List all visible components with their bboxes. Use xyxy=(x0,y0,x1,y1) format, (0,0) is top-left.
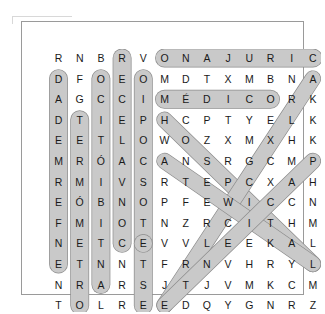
grid-cell[interactable]: I xyxy=(282,48,302,68)
grid-cell[interactable]: M xyxy=(239,275,259,295)
grid-cell[interactable]: E xyxy=(197,172,217,192)
grid-cell[interactable]: L xyxy=(91,295,111,314)
grid-cell[interactable]: T xyxy=(197,69,217,89)
grid-cell[interactable]: O xyxy=(155,48,175,68)
grid-cell[interactable]: F xyxy=(49,213,69,233)
grid-cell[interactable]: M xyxy=(303,275,323,295)
grid-cell[interactable]: B xyxy=(91,48,111,68)
grid-cell[interactable]: P xyxy=(155,192,175,212)
grid-cell[interactable]: C xyxy=(133,151,153,171)
grid-cell[interactable]: C xyxy=(282,192,302,212)
grid-cell[interactable]: C xyxy=(218,213,238,233)
grid-cell[interactable]: V xyxy=(218,254,238,274)
grid-cell[interactable]: N xyxy=(49,233,69,253)
grid-cell[interactable]: R xyxy=(112,48,132,68)
grid-cell[interactable]: K xyxy=(303,89,323,109)
grid-cell[interactable]: I xyxy=(218,89,238,109)
grid-cell[interactable]: Y xyxy=(239,110,259,130)
grid-cell[interactable]: F xyxy=(70,69,90,89)
grid-cell[interactable]: T xyxy=(261,213,281,233)
grid-cell[interactable]: K xyxy=(303,130,323,150)
grid-cell[interactable]: C xyxy=(176,110,196,130)
grid-cell[interactable]: E xyxy=(112,69,132,89)
grid-cell[interactable]: H xyxy=(239,254,259,274)
grid-cell[interactable]: Ó xyxy=(91,151,111,171)
grid-cell[interactable]: D xyxy=(197,89,217,109)
grid-cell[interactable]: V xyxy=(133,48,153,68)
grid-cell[interactable]: M xyxy=(155,69,175,89)
grid-cell[interactable]: T xyxy=(133,213,153,233)
grid-cell[interactable]: R xyxy=(282,295,302,314)
grid-cell[interactable]: S xyxy=(197,151,217,171)
grid-cell[interactable]: R xyxy=(197,213,217,233)
grid-cell[interactable]: Q xyxy=(197,295,217,314)
grid-cell[interactable]: A xyxy=(91,275,111,295)
grid-cell[interactable]: K xyxy=(261,233,281,253)
grid-cell[interactable]: G xyxy=(239,295,259,314)
grid-cell[interactable]: Y xyxy=(218,295,238,314)
grid-cell[interactable]: N xyxy=(282,69,302,89)
grid-cell[interactable]: V xyxy=(218,275,238,295)
grid-cell[interactable]: C xyxy=(303,48,323,68)
grid-cell[interactable]: G xyxy=(239,151,259,171)
grid-cell[interactable]: W xyxy=(218,192,238,212)
grid-cell[interactable]: N xyxy=(261,295,281,314)
grid-cell[interactable]: C xyxy=(239,172,259,192)
grid-cell[interactable]: N xyxy=(112,254,132,274)
grid-cell[interactable]: T xyxy=(91,130,111,150)
grid-cell[interactable]: T xyxy=(49,295,69,314)
grid-cell[interactable]: N xyxy=(112,192,132,212)
grid-cell[interactable]: I xyxy=(91,172,111,192)
grid-cell[interactable]: E xyxy=(133,233,153,253)
grid-cell[interactable]: C xyxy=(112,89,132,109)
grid-cell[interactable]: J xyxy=(155,275,175,295)
grid-cell[interactable]: O xyxy=(133,130,153,150)
grid-cell[interactable]: A xyxy=(197,48,217,68)
grid-cell[interactable]: A xyxy=(49,89,69,109)
grid-cell[interactable]: C xyxy=(261,192,281,212)
grid-cell[interactable]: P xyxy=(303,151,323,171)
grid-cell[interactable]: R xyxy=(70,151,90,171)
grid-cell[interactable]: N xyxy=(91,254,111,274)
grid-cell[interactable]: A xyxy=(112,151,132,171)
grid-cell[interactable]: Ó xyxy=(70,192,90,212)
grid-cell[interactable]: Y xyxy=(282,254,302,274)
grid-cell[interactable]: I xyxy=(239,213,259,233)
grid-cell[interactable]: A xyxy=(282,233,302,253)
grid-cell[interactable]: F xyxy=(176,192,196,212)
grid-cell[interactable]: T xyxy=(91,233,111,253)
grid-cell[interactable]: A xyxy=(155,151,175,171)
grid-cell[interactable]: T xyxy=(176,172,196,192)
grid-cell[interactable]: M xyxy=(155,89,175,109)
grid-cell[interactable]: N xyxy=(303,192,323,212)
grid-cell[interactable]: E xyxy=(49,254,69,274)
grid-cell[interactable]: A xyxy=(303,69,323,89)
grid-cell[interactable]: I xyxy=(133,89,153,109)
grid-cell[interactable]: H xyxy=(155,110,175,130)
grid-cell[interactable]: N xyxy=(176,151,196,171)
grid-cell[interactable]: P xyxy=(218,172,238,192)
grid-cell[interactable]: H xyxy=(282,213,302,233)
grid-cell[interactable]: D xyxy=(176,69,196,89)
grid-cell[interactable]: B xyxy=(91,192,111,212)
grid-cell[interactable]: V xyxy=(155,233,175,253)
grid-cell[interactable]: O xyxy=(112,213,132,233)
grid-cell[interactable]: R xyxy=(112,295,132,314)
grid-cell[interactable]: D xyxy=(49,69,69,89)
grid-cell[interactable]: P xyxy=(133,110,153,130)
grid-cell[interactable]: O xyxy=(133,192,153,212)
grid-cell[interactable]: W xyxy=(155,130,175,150)
grid-cell[interactable]: G xyxy=(70,89,90,109)
grid-cell[interactable]: S xyxy=(133,275,153,295)
grid-cell[interactable]: H xyxy=(303,172,323,192)
grid-cell[interactable]: U xyxy=(239,48,259,68)
grid-cell[interactable]: E xyxy=(261,110,281,130)
grid-cell[interactable]: J xyxy=(197,275,217,295)
grid-cell[interactable]: T xyxy=(218,110,238,130)
grid-cell[interactable]: R xyxy=(261,48,281,68)
grid-cell[interactable]: N xyxy=(49,275,69,295)
grid-cell[interactable]: T xyxy=(133,254,153,274)
grid-cell[interactable]: L xyxy=(303,254,323,274)
grid-cell[interactable]: E xyxy=(49,130,69,150)
grid-cell[interactable]: E xyxy=(133,295,153,314)
